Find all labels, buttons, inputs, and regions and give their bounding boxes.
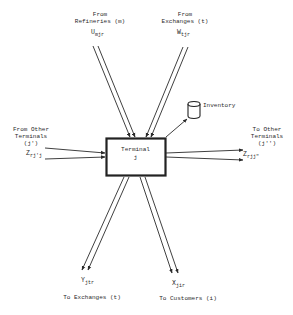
customers-outflow-arrows <box>140 177 178 273</box>
other-terminals-inflow-arrows <box>45 148 105 159</box>
terminal-flow-diagram: Terminal j Inventory From Refineries (m)… <box>0 0 293 315</box>
inventory-label: Inventory <box>203 102 235 109</box>
exchanges-inflow-variable: Wtjr <box>177 29 190 38</box>
inventory-cylinder-icon <box>188 102 200 119</box>
other-terminals-source-label: From Other Terminals (j') <box>8 126 54 147</box>
refineries-inflow-arrows <box>93 46 135 137</box>
exchanges-outflow-arrows <box>82 177 129 270</box>
inventory-link-arrow <box>166 119 187 137</box>
other-terminals-destination-label: To Other Terminals (j'') <box>244 126 290 147</box>
terminal-index: j <box>106 154 165 162</box>
customers-destination-label: To Customers (i) <box>158 295 218 302</box>
exchanges-destination-label: To Exchanges (t) <box>62 294 122 301</box>
exchanges-outflow-variable: Yjtr <box>81 277 94 286</box>
terminal-node-label: Terminal j <box>106 146 165 162</box>
terminal-title: Terminal <box>106 146 165 154</box>
other-terminals-outflow-arrows <box>166 150 243 160</box>
other-terminals-outflow-variable: Zrjj" <box>243 151 259 160</box>
other-terminals-inflow-variable: Zrj'j <box>26 150 42 159</box>
customers-outflow-variable: Xjir <box>172 280 185 289</box>
exchanges-source-label: From Exchanges (t) <box>160 11 210 25</box>
refineries-flow-variable: Umjr <box>91 29 104 38</box>
refineries-source-label: From Refineries (m) <box>72 11 128 25</box>
